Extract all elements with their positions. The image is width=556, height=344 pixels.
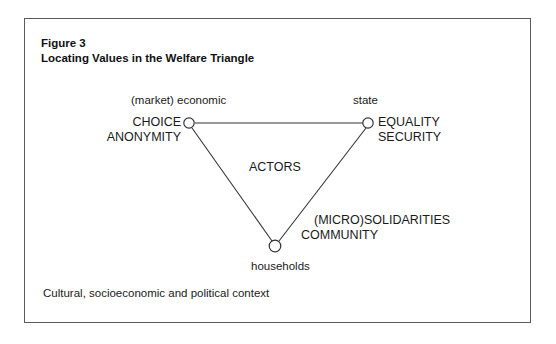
node-market-value-choice: CHOICE: [25, 115, 181, 130]
node-market-circle[interactable]: [184, 118, 194, 128]
node-state-value-equality: EQUALITY: [378, 115, 440, 130]
context-note: Cultural, socioeconomic and political co…: [43, 287, 269, 299]
node-market-value-anonymity: ANONYMITY: [25, 130, 181, 145]
node-households-circle[interactable]: [269, 240, 281, 252]
node-households-sector-label: households: [251, 259, 310, 274]
node-state-circle[interactable]: [363, 118, 373, 128]
node-state-sector-label: state: [353, 93, 378, 108]
node-households-value-solidarities: (MICRO)SOLIDARITIES: [314, 213, 450, 228]
edge-market-to-households: [192, 128, 272, 241]
figure-frame: Figure 3 Locating Values in the Welfare …: [24, 18, 531, 323]
node-market-sector-label: (market) economic: [131, 93, 226, 108]
node-households-value-community: COMMUNITY: [301, 228, 378, 243]
actors-center-label: ACTORS: [249, 160, 301, 175]
node-state-value-security: SECURITY: [378, 130, 441, 145]
